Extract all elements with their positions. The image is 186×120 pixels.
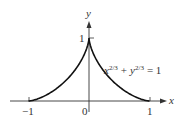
- y-axis-label: y: [85, 7, 91, 19]
- x-axis-arrow-icon: [160, 99, 167, 104]
- x-tick-label-neg1: −1: [22, 105, 34, 117]
- astroid-diagram: y x 1 −1 0 1 x2/3+y2/3= 1: [0, 0, 186, 120]
- equation-label: x2/3+y2/3= 1: [103, 64, 161, 76]
- x-axis-label: x: [168, 94, 174, 106]
- y-tick-label-1: 1: [79, 32, 85, 44]
- y-axis-arrow-icon: [87, 21, 92, 28]
- x-tick-label-1: 1: [147, 105, 153, 117]
- x-tick-label-0: 0: [82, 105, 88, 117]
